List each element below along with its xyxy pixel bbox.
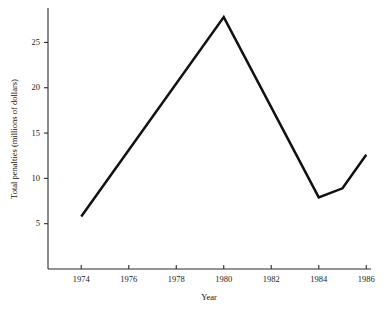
x-tick-label: 1986 <box>358 274 375 284</box>
x-tick-label: 1980 <box>215 274 232 284</box>
y-axis-title: Total penalties (millions of dollars) <box>9 79 19 199</box>
chart-canvas: 510152025 1974197619781980198219841986 Y… <box>0 0 388 314</box>
y-tick-label: 10 <box>32 173 41 183</box>
x-tick-label: 1984 <box>310 274 328 284</box>
y-tick-label: 5 <box>36 218 40 228</box>
y-tick-label: 15 <box>32 128 41 138</box>
line-chart: 510152025 1974197619781980198219841986 Y… <box>0 0 388 314</box>
x-tick-label: 1978 <box>168 274 185 284</box>
y-tick-label: 20 <box>32 82 41 92</box>
x-axis-title: Year <box>201 292 217 302</box>
chart-background <box>0 0 388 314</box>
y-tick-label: 25 <box>32 37 41 47</box>
x-tick-label: 1974 <box>73 274 91 284</box>
x-tick-label: 1976 <box>120 274 137 284</box>
x-tick-label: 1982 <box>263 274 280 284</box>
